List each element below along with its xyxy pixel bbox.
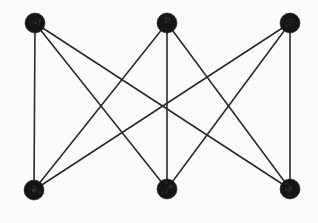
vertex-texture-speck	[288, 22, 289, 23]
vertex-texture-speck	[168, 19, 170, 21]
vertex-texture-speck	[288, 187, 291, 190]
vertex-texture-speck	[39, 191, 41, 193]
graph-vertex-t2	[157, 13, 177, 33]
vertex-texture-speck	[39, 18, 40, 19]
vertex-texture-speck	[291, 18, 293, 20]
vertex-texture-speck	[285, 183, 288, 186]
vertex-texture-speck	[39, 22, 41, 24]
vertex-texture-speck	[168, 16, 170, 18]
graph-edge-t1-b1	[34, 23, 35, 190]
vertex-texture-speck	[169, 23, 170, 24]
vertex-texture-speck	[36, 28, 37, 29]
vertex-texture-speck	[285, 25, 287, 27]
vertex-texture-speck	[288, 189, 290, 191]
vertex-texture-speck	[290, 193, 291, 194]
graph-vertex-t1	[25, 13, 45, 33]
graph-vertex-t3	[280, 13, 300, 33]
vertex-texture-speck	[286, 20, 288, 22]
vertex-texture-speck	[34, 22, 36, 24]
vertex-texture-speck	[39, 19, 41, 21]
vertex-texture-speck	[166, 20, 169, 23]
vertex-texture-speck	[32, 189, 35, 192]
edge-layer	[34, 23, 290, 190]
vertex-texture-speck	[165, 17, 168, 20]
graph-vertex-b3	[280, 179, 300, 199]
vertex-texture-speck	[162, 191, 164, 193]
vertex-disc	[280, 13, 300, 33]
vertex-texture-speck	[167, 190, 169, 192]
vertex-texture-speck	[171, 186, 173, 188]
vertex-texture-speck	[290, 21, 291, 22]
graph-vertex-b1	[24, 180, 44, 200]
vertex-texture-speck	[288, 18, 290, 20]
vertex-texture-speck	[165, 192, 167, 194]
vertex-texture-speck	[289, 23, 291, 25]
graph-diagram-canvas	[0, 0, 318, 223]
figure-container	[0, 0, 318, 223]
vertex-texture-speck	[164, 21, 166, 23]
graph-vertex-b2	[157, 179, 177, 199]
vertex-texture-speck	[289, 25, 290, 26]
vertex-texture-speck	[32, 21, 34, 23]
vertex-disc	[157, 13, 177, 33]
vertex-texture-speck	[34, 187, 35, 188]
vertex-texture-speck	[169, 186, 171, 188]
vertex-texture-speck	[38, 24, 40, 26]
vertex-texture-speck	[291, 21, 293, 23]
vertex-texture-speck	[165, 181, 168, 184]
vertex-texture-speck	[285, 188, 288, 191]
